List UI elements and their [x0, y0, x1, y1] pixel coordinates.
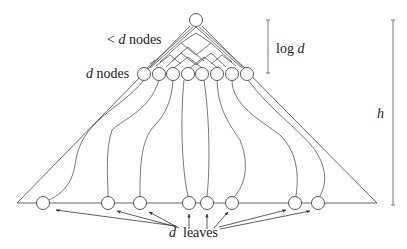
leaf-node	[289, 197, 302, 210]
label-suffix: leaves	[183, 225, 218, 240]
paths-to-leaves	[49, 80, 325, 200]
d-node	[153, 68, 166, 81]
leaf-node	[183, 197, 196, 210]
label-prefix: log	[276, 41, 297, 56]
tree-diagram	[0, 0, 407, 249]
leaf-node	[37, 197, 50, 210]
less-than-d-nodes-label: < d nodes	[107, 33, 162, 47]
log-d-bracket	[266, 20, 270, 73]
outer-triangle	[17, 26, 377, 203]
leaf-node	[134, 197, 147, 210]
log-d-label: log d	[276, 42, 304, 56]
d-node	[182, 68, 195, 81]
d-node	[211, 68, 224, 81]
leaf-node	[201, 197, 214, 210]
label-prefix: <	[107, 32, 118, 47]
height-bracket	[391, 20, 395, 205]
label-var: d	[86, 66, 93, 81]
leaf-node	[102, 197, 115, 210]
d-node	[167, 68, 180, 81]
label-suffix: nodes	[93, 66, 129, 81]
d-nodes-label: d nodes	[86, 67, 129, 81]
d-node	[226, 68, 239, 81]
label-var: d	[169, 225, 176, 240]
root-node	[190, 14, 203, 27]
label-suffix: nodes	[125, 32, 161, 47]
leaf-node	[312, 197, 325, 210]
upper-tree-mesh	[147, 27, 245, 68]
label-var: d	[297, 41, 304, 56]
height-label: h	[377, 107, 384, 121]
d-nodes-row	[138, 68, 254, 81]
leaf-node	[226, 197, 239, 210]
d-node	[196, 68, 209, 81]
d-leaves-label: d leaves	[169, 226, 218, 240]
d-node	[138, 68, 151, 81]
d-node	[241, 68, 254, 81]
